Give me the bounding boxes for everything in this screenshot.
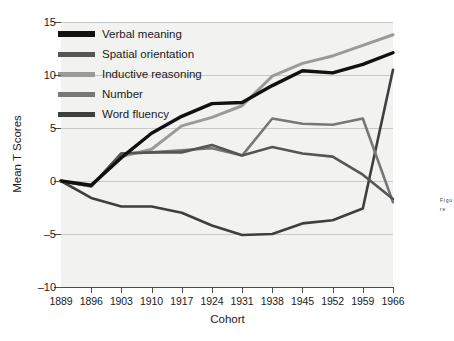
x-tick-1966 [393, 287, 394, 293]
x-tick-1896 [91, 287, 92, 293]
legend-item-word-fluency[interactable]: Word fluency [58, 104, 202, 124]
x-tick-label-1924: 1924 [200, 295, 223, 307]
x-tick-1903 [121, 287, 122, 293]
x-tick-label-1903: 1903 [110, 295, 133, 307]
x-tick-label-1959: 1959 [351, 295, 374, 307]
x-tick-label-1889: 1889 [50, 295, 73, 307]
legend-label: Inductive reasoning [102, 68, 202, 80]
y-tick-label--5: –5 [44, 228, 56, 240]
x-axis-title: Cohort [61, 313, 394, 325]
y-axis-title: Mean T Scores [11, 109, 23, 199]
x-tick-label-1910: 1910 [140, 295, 163, 307]
x-tick-label-1917: 1917 [170, 295, 193, 307]
legend-swatch-icon [58, 72, 95, 77]
x-tick-1910 [152, 287, 153, 293]
legend-swatch-icon [58, 31, 95, 37]
x-axis-line [61, 287, 394, 288]
legend-item-inductive-reasoning[interactable]: Inductive reasoning [58, 64, 202, 84]
x-tick-1917 [182, 287, 183, 293]
x-tick-1931 [242, 287, 243, 293]
legend-item-spatial-orientation[interactable]: Spatial orientation [58, 44, 202, 64]
legend-label: Spatial orientation [102, 48, 194, 60]
legend-swatch-icon [58, 112, 95, 117]
legend-label: Number [102, 88, 143, 100]
chart-figure: Cohort Mean T Scores Verbal meaningSpati… [0, 0, 454, 341]
y-tick-label-5: 5 [50, 122, 56, 134]
x-tick-label-1938: 1938 [261, 295, 284, 307]
x-tick-label-1952: 1952 [321, 295, 344, 307]
y-tick-label-0: 0 [50, 175, 56, 187]
legend-swatch-icon [58, 92, 95, 97]
legend-item-number[interactable]: Number [58, 84, 202, 104]
x-tick-label-1896: 1896 [80, 295, 103, 307]
x-tick-label-1945: 1945 [291, 295, 314, 307]
chart-legend: Verbal meaningSpatial orientationInducti… [58, 24, 202, 124]
x-tick-1938 [272, 287, 273, 293]
legend-item-verbal-meaning[interactable]: Verbal meaning [58, 24, 202, 44]
page-side-caption: F i g u r e [440, 196, 454, 214]
x-tick-1959 [363, 287, 364, 293]
y-tick-label-10: 10 [44, 69, 56, 81]
legend-label: Word fluency [102, 108, 169, 120]
y-tick-label--10: –10 [38, 281, 56, 293]
x-tick-label-1931: 1931 [231, 295, 254, 307]
x-tick-1945 [302, 287, 303, 293]
x-tick-label-1966: 1966 [382, 295, 405, 307]
legend-swatch-icon [58, 52, 95, 57]
x-tick-1924 [212, 287, 213, 293]
x-tick-1952 [333, 287, 334, 293]
legend-label: Verbal meaning [102, 28, 182, 40]
series-line-number [61, 118, 393, 202]
y-tick-label-15: 15 [44, 16, 56, 28]
